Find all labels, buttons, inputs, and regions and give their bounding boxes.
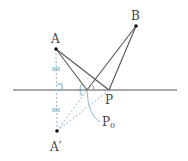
- right-angle-mark: [57, 84, 62, 90]
- label-a-prime: A′: [49, 140, 62, 154]
- point-a: [54, 47, 58, 51]
- label-b: B: [131, 9, 140, 23]
- label-p: P: [105, 93, 113, 107]
- point-b: [134, 24, 138, 28]
- segments: [56, 26, 136, 90]
- label-a: A: [50, 32, 60, 46]
- perpendicular-dashed: [56, 49, 57, 131]
- p0-leader: [87, 91, 100, 122]
- label-p0: P0: [102, 115, 115, 130]
- point-a-prime: [55, 129, 59, 133]
- geometry-diagram: A B P P0 A′: [0, 0, 188, 161]
